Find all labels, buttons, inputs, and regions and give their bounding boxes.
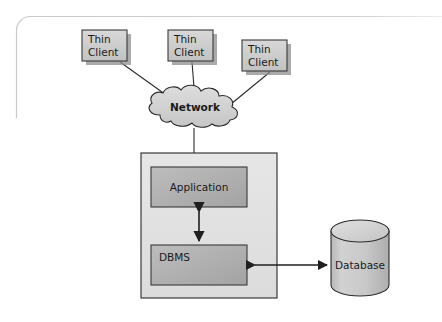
application-node[interactable]: Application xyxy=(151,167,247,207)
architecture-diagram: Thin Client Thin Client Thin Client Netw… xyxy=(0,0,442,322)
database-label: Database xyxy=(335,259,385,271)
network-cloud[interactable]: Network xyxy=(149,85,237,127)
network-label: Network xyxy=(170,101,221,113)
connector-client3-to-network xyxy=(231,72,270,104)
thin-client-1-label-line1: Thin xyxy=(87,33,111,45)
thin-client-3[interactable]: Thin Client xyxy=(242,40,291,75)
dbms-label: DBMS xyxy=(159,251,190,263)
thin-client-1-label-line2: Client xyxy=(88,46,118,58)
page-frame xyxy=(16,17,442,151)
server-container[interactable]: Application DBMS xyxy=(141,153,277,298)
thin-client-2[interactable]: Thin Client xyxy=(168,30,217,65)
application-label: Application xyxy=(170,181,229,193)
thin-client-3-label-line2: Client xyxy=(248,56,278,68)
diagram-canvas: Thin Client Thin Client Thin Client Netw… xyxy=(0,0,442,322)
thin-client-2-label-line2: Client xyxy=(174,46,204,58)
thin-client-1[interactable]: Thin Client xyxy=(82,30,131,65)
thin-client-3-label-line1: Thin xyxy=(247,43,271,55)
database-cylinder[interactable]: Database xyxy=(331,220,389,296)
dbms-node[interactable]: DBMS xyxy=(151,245,247,285)
thin-client-2-label-line1: Thin xyxy=(173,33,197,45)
database-cylinder-top xyxy=(331,220,389,242)
